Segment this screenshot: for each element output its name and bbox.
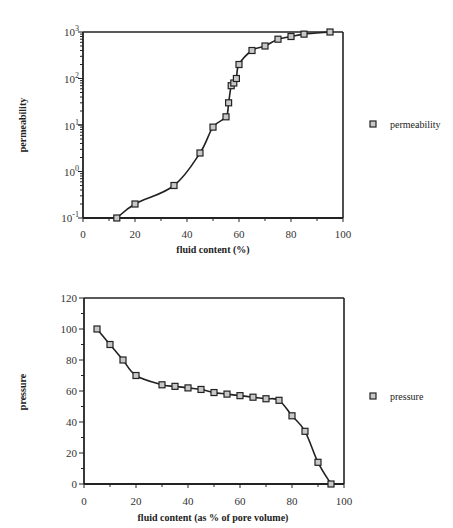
data-point-marker (289, 413, 295, 419)
pressure-series-markers (94, 326, 334, 487)
x-tick-label: 80 (287, 495, 299, 507)
data-point-marker (198, 386, 204, 392)
data-point-marker (328, 481, 334, 487)
y-axis-title: permeability (17, 98, 28, 152)
y-tick-label: 20 (66, 447, 78, 459)
data-point-marker (262, 43, 268, 49)
data-point-marker (249, 48, 255, 54)
data-point-marker (275, 36, 281, 42)
data-point-marker (185, 385, 191, 391)
y-tick-label: 10-1 (61, 210, 79, 224)
x-tick-label: 40 (183, 495, 195, 507)
data-point-marker (301, 31, 307, 37)
legend-label: permeability (390, 119, 441, 130)
pressure-chart: 120 100 80 60 40 20 0 0 20 40 60 80 100 … (17, 292, 424, 524)
data-point-marker (223, 114, 229, 120)
x-tick-label: 20 (131, 495, 143, 507)
x-tick-label: 60 (235, 495, 247, 507)
legend: permeability (370, 119, 441, 130)
y-tick-label: 102 (64, 71, 79, 85)
y-tick-label: 80 (66, 354, 78, 366)
data-point-marker (159, 382, 165, 388)
data-point-marker (172, 383, 178, 389)
x-tick-label: 80 (286, 228, 298, 240)
data-point-marker (133, 373, 139, 379)
y-tick-label: 0 (72, 478, 78, 490)
y-axis-title: pressure (17, 373, 28, 410)
data-point-marker (120, 357, 126, 363)
x-tick-labels: 0 20 40 60 80 100 (81, 495, 353, 507)
legend: pressure (370, 391, 424, 402)
x-tick-labels: 0 20 40 60 80 100 (80, 228, 352, 240)
data-point-marker (237, 393, 243, 399)
data-point-marker (327, 29, 333, 35)
x-tick-label: 40 (182, 228, 194, 240)
data-point-marker (224, 391, 230, 397)
data-point-marker (250, 394, 256, 400)
data-point-marker (315, 459, 321, 465)
y-tick-label: 103 (64, 24, 79, 38)
data-point-marker (233, 76, 239, 82)
data-point-marker (197, 150, 203, 156)
data-point-marker (171, 182, 177, 188)
y-tick-label: 101 (64, 118, 79, 132)
data-point-marker (107, 342, 113, 348)
permeability-chart: 103 102 101 100 10-1 0 20 40 60 80 100 f… (17, 24, 441, 256)
y-tick-label: 100 (61, 323, 78, 335)
figure-canvas: 103 102 101 100 10-1 0 20 40 60 80 100 f… (0, 0, 453, 528)
x-tick-label: 100 (335, 228, 352, 240)
x-axis-title: fluid content (as % of pore volume) (138, 512, 289, 524)
y-tick-label: 40 (66, 416, 78, 428)
x-axis-title: fluid content (%) (176, 244, 249, 256)
data-point-marker (94, 326, 100, 332)
y-tick-label: 60 (66, 385, 78, 397)
x-tick-label: 0 (81, 495, 87, 507)
data-point-marker (288, 34, 294, 40)
y-tick-labels: 120 100 80 60 40 20 0 (61, 292, 78, 490)
data-point-marker (302, 428, 308, 434)
data-point-marker (276, 397, 282, 403)
y-axis-ticks: 103 102 101 100 10-1 (61, 24, 79, 224)
data-point-marker (263, 396, 269, 402)
permeability-series-line (117, 32, 330, 218)
permeability-series-markers (114, 29, 333, 221)
data-point-marker (210, 124, 216, 130)
y-tick-label: 100 (64, 164, 79, 178)
data-point-marker (211, 390, 217, 396)
pressure-series-line (97, 329, 331, 484)
legend-marker-icon (370, 121, 376, 127)
data-point-marker (114, 215, 120, 221)
x-tick-label: 60 (234, 228, 246, 240)
data-point-marker (236, 62, 242, 68)
data-point-marker (226, 100, 232, 106)
y-tick-label: 120 (61, 292, 78, 304)
x-tick-label: 20 (130, 228, 142, 240)
data-point-marker (132, 201, 138, 207)
x-tick-label: 0 (80, 228, 86, 240)
legend-marker-icon (370, 393, 376, 399)
x-tick-label: 100 (336, 495, 353, 507)
legend-label: pressure (390, 391, 424, 402)
